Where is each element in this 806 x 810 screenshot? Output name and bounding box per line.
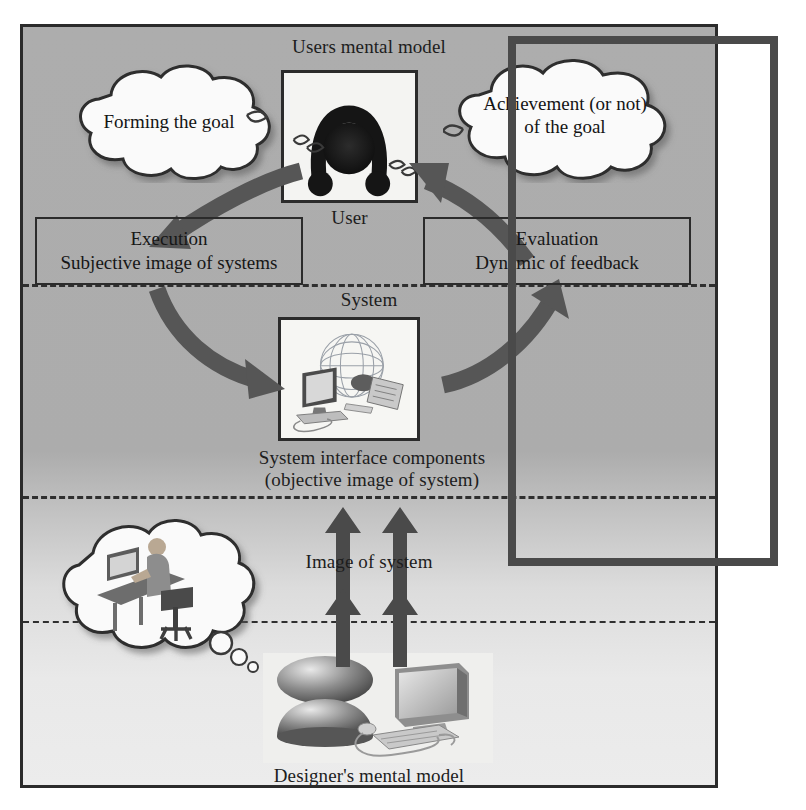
designer-thought-cloud: [35, 511, 275, 676]
arrow-image-of-system-up-left-lower: [323, 589, 363, 667]
user-label: User: [281, 207, 418, 229]
overlay-rectangle: [508, 36, 778, 566]
mouse-monitor-keyboard-icon: [263, 653, 493, 763]
forming-goal-text: Forming the goal: [65, 61, 293, 183]
execution-box[interactable]: Execution Subjective image of systems: [35, 217, 303, 285]
diagram-canvas: Users mental model: [0, 0, 806, 810]
designer-equipment-image: [263, 653, 493, 763]
forming-goal-cloud: Forming the goal: [65, 61, 293, 183]
execution-title: Execution: [130, 227, 207, 251]
execution-subtitle: Subjective image of systems: [61, 251, 278, 275]
designers-mental-model-label: Designer's mental model: [23, 765, 715, 787]
thought-cloud-shape: [35, 511, 275, 676]
arrow-image-of-system-up-right-lower: [380, 589, 420, 667]
